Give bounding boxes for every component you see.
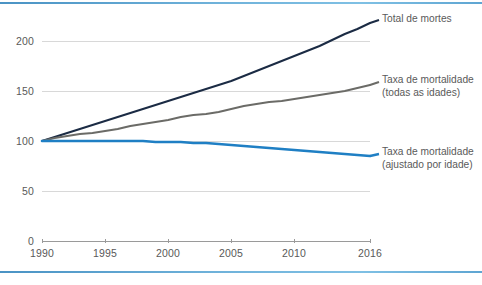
legend-label-line2: (ajustado por idade)	[382, 159, 474, 172]
legend-connector-taxa-ajustado-idade	[370, 154, 379, 156]
legend-item-taxa-todas-idades: Taxa de mortalidade (todas as idades)	[382, 74, 474, 99]
legend-label-line1: Taxa de mortalidade	[382, 146, 474, 159]
legend-connectors	[0, 0, 482, 285]
legend-connector-taxa-todas-idades	[370, 82, 379, 85]
legend-connector-total-de-mortes	[370, 20, 379, 23]
legend-label-line1: Total de mortes	[382, 13, 452, 26]
plot-area: 200 150 100 50 0 1990 1995 2000 2005 201…	[0, 0, 482, 285]
legend-label-line2: (todas as idades)	[382, 87, 474, 100]
legend-label-line1: Taxa de mortalidade	[382, 74, 474, 87]
legend-item-total-de-mortes: Total de mortes	[382, 13, 452, 26]
chart-figure: 200 150 100 50 0 1990 1995 2000 2005 201…	[0, 0, 482, 285]
legend-item-taxa-ajustado-idade: Taxa de mortalidade (ajustado por idade)	[382, 146, 474, 171]
